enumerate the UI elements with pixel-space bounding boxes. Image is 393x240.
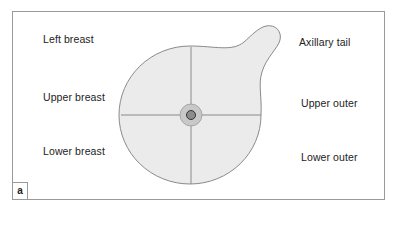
label-axillary-tail: Axillary tail: [299, 36, 350, 48]
label-lower-outer: Lower outer: [301, 151, 358, 163]
label-lower-breast: Lower breast: [43, 145, 105, 157]
nipple: [187, 111, 196, 120]
breast-outline: [119, 26, 280, 184]
label-upper-breast: Upper breast: [43, 91, 105, 103]
label-upper-outer: Upper outer: [301, 97, 358, 109]
panel-label: a: [12, 182, 28, 200]
label-left-breast: Left breast: [43, 33, 94, 45]
